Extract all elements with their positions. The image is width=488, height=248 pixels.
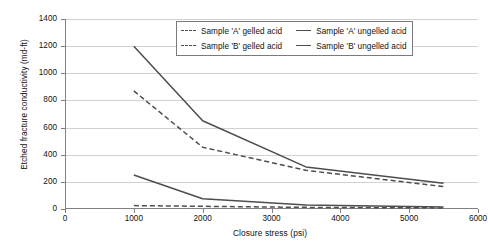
y-tick-label: 1400 <box>13 15 57 23</box>
y-tick-label: 600 <box>13 124 57 132</box>
legend-line-swatch-icon <box>181 27 196 35</box>
legend-item[interactable]: Sample 'A' gelled acid <box>181 24 282 38</box>
x-tick-label: 1000 <box>112 215 156 223</box>
y-tick-label: 0 <box>13 205 57 213</box>
x-tick-mark <box>409 209 410 213</box>
x-tick-label: 5000 <box>387 215 431 223</box>
x-tick-mark <box>134 209 135 213</box>
y-tick-label: 1200 <box>13 42 57 50</box>
legend-line-swatch-icon <box>296 42 311 50</box>
x-tick-label: 3000 <box>250 215 294 223</box>
legend-item-label: Sample 'B' gelled acid <box>201 42 282 51</box>
legend-line-swatch-icon <box>181 42 196 50</box>
x-tick-mark <box>272 209 273 213</box>
legend-item[interactable]: Sample 'B' ungelled acid <box>296 39 406 53</box>
legend-item-label: Sample 'B' ungelled acid <box>316 42 406 51</box>
data-series-line <box>134 46 444 183</box>
legend-item-label: Sample 'A' gelled acid <box>201 27 282 36</box>
chart-legend: Sample 'A' gelled acidSample 'A' ungelle… <box>176 21 413 56</box>
x-tick-label: 4000 <box>318 215 362 223</box>
chart-figure: Etched fracture conductivity (md-ft) Clo… <box>0 0 488 248</box>
y-tick-label: 400 <box>13 151 57 159</box>
x-tick-mark <box>65 209 66 213</box>
x-axis-title: Closure stress (psi) <box>60 228 480 238</box>
x-tick-label: 6000 <box>456 215 488 223</box>
y-tick-label: 200 <box>13 178 57 186</box>
legend-item[interactable]: Sample 'B' gelled acid <box>181 39 282 53</box>
legend-item-label: Sample 'A' ungelled acid <box>316 27 406 36</box>
y-tick-label: 800 <box>13 96 57 104</box>
x-tick-mark <box>340 209 341 213</box>
x-tick-label: 2000 <box>181 215 225 223</box>
y-tick-label: 1000 <box>13 69 57 77</box>
legend-line-swatch-icon <box>296 27 311 35</box>
data-series-line <box>134 175 444 207</box>
y-axis-title: Etched fracture conductivity (md-ft) <box>20 5 29 205</box>
x-tick-mark <box>478 209 479 213</box>
legend-item[interactable]: Sample 'A' ungelled acid <box>296 24 406 38</box>
x-tick-mark <box>203 209 204 213</box>
data-series-line <box>134 91 444 187</box>
x-tick-label: 0 <box>43 215 87 223</box>
